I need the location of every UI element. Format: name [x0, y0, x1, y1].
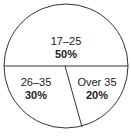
slice-pct-over-35: 20% [86, 89, 108, 101]
slice-label-26-35: 26–35 [21, 76, 52, 88]
slice-pct-17-25: 50% [55, 48, 77, 60]
slice-label-over-35: Over 35 [77, 76, 116, 88]
pie-chart: 17–25 50% 26–35 30% Over 35 20% [0, 0, 131, 137]
slice-pct-26-35: 30% [25, 89, 47, 101]
slice-label-17-25: 17–25 [51, 35, 82, 47]
